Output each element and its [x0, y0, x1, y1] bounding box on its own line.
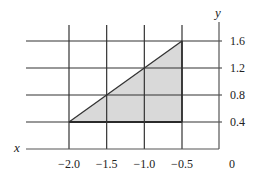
- y-tick-label: 0.8: [230, 88, 245, 102]
- x-axis-label: x: [13, 140, 20, 155]
- x-tick-label: −1.0: [133, 157, 155, 171]
- y-tick-label: 0.4: [230, 115, 245, 129]
- y-axis-label: y: [213, 5, 221, 20]
- x-tick-label: 0: [229, 157, 235, 171]
- y-tick-label: 1.6: [230, 34, 245, 48]
- chart: −2.0−1.5−1.0−0.500.40.81.21.6 x y: [0, 0, 253, 180]
- shaded-triangle: [69, 41, 182, 122]
- x-tick-label: −2.0: [58, 157, 80, 171]
- x-tick-label: −0.5: [171, 157, 193, 171]
- y-tick-label: 1.2: [230, 61, 245, 75]
- x-tick-label: −1.5: [96, 157, 118, 171]
